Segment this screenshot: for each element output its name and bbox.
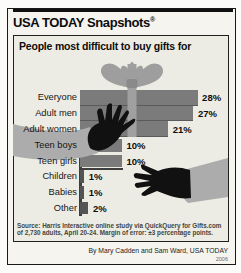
source-note: Source: Harris Interactive online study … — [17, 223, 225, 237]
usa-today-snapshot: USA TODAY Snapshots® People most difficu… — [0, 0, 241, 273]
value-label: 21% — [173, 124, 192, 135]
bar-teen-boys — [80, 139, 122, 152]
value-label: 1% — [89, 171, 103, 182]
brand-title: USA TODAY Snapshots® — [13, 15, 213, 30]
bar-everyone — [80, 90, 198, 106]
bar-adult-women — [80, 121, 168, 137]
byline: By Mary Cadden and Sam Ward, USA TODAY — [20, 247, 228, 254]
category-label: Children — [13, 171, 77, 182]
value-label: 28% — [202, 92, 221, 103]
bar-other — [80, 202, 88, 215]
category-label: Other — [13, 203, 77, 214]
edition-year: 2006 — [20, 256, 228, 262]
category-label: Babies — [13, 187, 77, 198]
category-label: Adult women — [13, 124, 77, 135]
value-label: 2% — [93, 203, 107, 214]
chart-title: People most difficult to buy gifts for — [19, 40, 227, 52]
value-label: 10% — [127, 140, 146, 151]
bar-babies — [80, 186, 84, 199]
category-label: Adult men — [13, 108, 77, 119]
bar-children — [80, 170, 84, 183]
value-label: 10% — [127, 156, 146, 167]
bar-adult-men — [80, 106, 193, 122]
value-label: 1% — [89, 187, 103, 198]
brand-text: USA TODAY Snapshots — [13, 15, 150, 30]
registered-mark: ® — [150, 16, 155, 23]
giftbox-shadow-line — [79, 168, 123, 170]
category-label: Teen girls — [13, 156, 77, 167]
category-label: Everyone — [13, 92, 77, 103]
value-label: 27% — [198, 108, 217, 119]
masthead-rule — [13, 9, 233, 12]
bar-teen-girls — [80, 155, 122, 168]
category-label: Teen boys — [13, 140, 77, 151]
source-line-2: of 2,730 adults, April 20-24. Margin of … — [17, 230, 225, 237]
